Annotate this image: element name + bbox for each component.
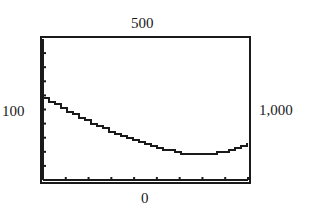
calculator-graph — [0, 0, 312, 213]
data-curve — [43, 98, 248, 154]
axes — [43, 39, 248, 180]
graph-frame — [41, 37, 250, 183]
